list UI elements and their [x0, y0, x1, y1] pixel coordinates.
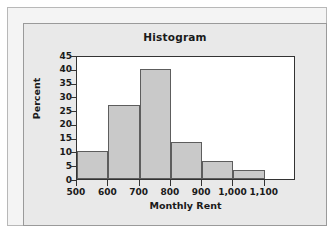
y-tick-label: 30	[50, 93, 72, 102]
y-tick-label: 45	[50, 52, 72, 61]
x-tick-mark	[170, 180, 171, 186]
plot-area	[76, 56, 295, 180]
y-tick-label: 5	[50, 162, 72, 171]
x-axis-tick-labels: 5006007008009001,0001,100	[76, 187, 295, 199]
y-tick-label: 25	[50, 107, 72, 116]
histogram-bar	[108, 105, 139, 179]
figure-outer-frame: Histogram Percent 051015202530354045 500…	[7, 7, 327, 226]
x-tick-mark	[139, 180, 140, 186]
y-tick-label: 10	[50, 148, 72, 157]
x-tick-mark	[264, 180, 265, 186]
histogram-bar	[202, 161, 233, 179]
histogram-bar	[171, 142, 202, 179]
y-tick-label: 20	[50, 120, 72, 129]
x-tick-mark	[232, 180, 233, 186]
x-axis-title: Monthly Rent	[76, 200, 295, 211]
y-tick-label: 15	[50, 134, 72, 143]
y-tick-label: 0	[50, 176, 72, 185]
histogram-bar	[233, 170, 264, 179]
x-tick-mark	[107, 180, 108, 186]
x-tick-label: 1,100	[244, 187, 284, 197]
histogram-bar	[77, 151, 108, 179]
x-tick-mark	[76, 180, 77, 186]
y-axis-title: Percent	[31, 69, 42, 129]
x-tick-mark	[201, 180, 202, 186]
y-axis-tick-labels: 051015202530354045	[48, 56, 72, 180]
x-axis-tick-marks	[76, 180, 295, 186]
histogram-bar	[140, 69, 171, 179]
histogram-bars	[77, 57, 294, 179]
y-tick-label: 40	[50, 65, 72, 74]
y-tick-label: 35	[50, 79, 72, 88]
chart-title: Histogram	[24, 31, 326, 43]
